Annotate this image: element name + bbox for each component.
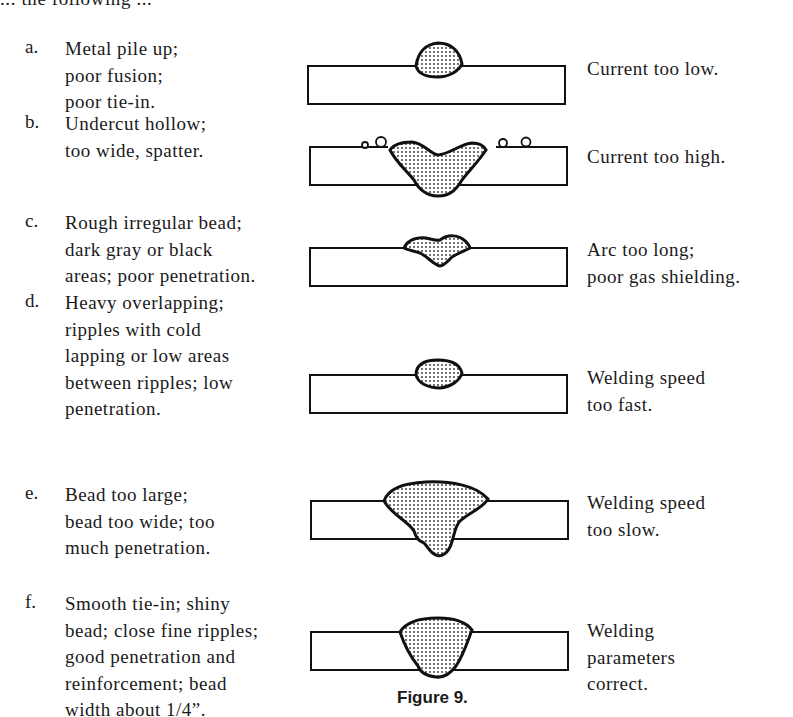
item-description-b: Undercut hollow; too wide, spatter.: [65, 111, 207, 164]
item-cause-e: Welding speed too slow.: [587, 490, 705, 543]
item-cause-c: Arc too long; poor gas shielding.: [587, 237, 741, 290]
figure-caption: Figure 9.: [397, 688, 468, 708]
item-description-a: Metal pile up; poor fusion; poor tie-in.: [65, 36, 179, 116]
item-cause-b: Current too high.: [587, 144, 726, 171]
weld-bead-diagram-c: [300, 225, 580, 295]
item-cause-d: Welding speed too fast.: [587, 365, 705, 418]
item-letter-a: a.: [25, 36, 38, 58]
item-letter-c: c.: [25, 210, 38, 232]
item-letter-f: f.: [25, 591, 36, 613]
weld-bead-diagram-e: [300, 475, 580, 575]
item-description-c: Rough irregular bead; dark gray or black…: [65, 210, 256, 290]
item-cause-a: Current too low.: [587, 56, 719, 83]
item-letter-b: b.: [25, 111, 39, 133]
weld-bead-diagram-a: [300, 30, 580, 110]
item-description-f: Smooth tie-in; shiny bead; close fine ri…: [65, 591, 258, 717]
item-description-e: Bead too large; bead too wide; too much …: [65, 482, 215, 562]
item-cause-f: Welding parameters correct.: [587, 618, 675, 698]
weld-bead-diagram-b: [300, 130, 580, 205]
weld-bead-diagram-d: [300, 355, 580, 425]
intro-text-cropped: ... the following ...: [0, 0, 152, 10]
item-letter-e: e.: [25, 482, 38, 504]
item-letter-d: d.: [25, 290, 39, 312]
item-description-d: Heavy overlapping; ripples with cold lap…: [65, 290, 233, 423]
weld-bead-diagram-f: [300, 610, 580, 690]
